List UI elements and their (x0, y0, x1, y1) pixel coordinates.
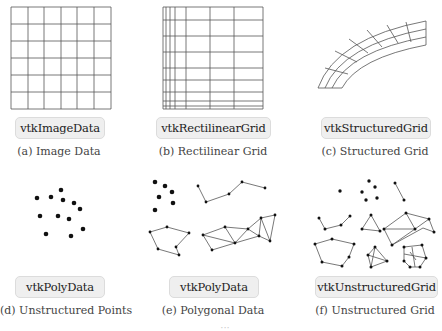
polygonal-data-figure (145, 175, 295, 264)
cropped-figure-caption: ··· (150, 322, 300, 331)
unstructured-grid-figure (300, 175, 442, 274)
structured-grid-figure (316, 18, 432, 97)
caption-f: (f) Unstructured Grid (312, 304, 438, 317)
class-label-d: vtkPolyData (15, 276, 105, 298)
caption-b: (b) Rectilinear Grid (150, 145, 276, 158)
curvilinear-grid-icon (316, 18, 432, 93)
class-label-e: vtkPolyData (169, 276, 259, 298)
uniform-grid-icon (10, 6, 112, 110)
point-cloud-icon (0, 165, 120, 245)
rectilinear-grid-icon (162, 6, 264, 110)
image-data-figure (10, 6, 112, 114)
polygon-mesh-icon (145, 175, 295, 260)
mixed-cell-mesh-icon (300, 175, 442, 270)
class-label-f: vtkUnstructuredGrid (315, 276, 438, 298)
caption-e: (e) Polygonal Data (150, 304, 276, 317)
class-label-b: vtkRectilinearGrid (156, 117, 271, 139)
caption-a: (a) Image Data (0, 145, 118, 158)
unstructured-points-figure (0, 165, 120, 249)
rectilinear-grid-figure (162, 6, 264, 114)
caption-d: (d) Unstructured Points (0, 304, 122, 317)
class-label-a: vtkImageData (15, 117, 105, 139)
class-label-c: vtkStructuredGrid (321, 117, 431, 139)
caption-c: (c) Structured Grid (312, 145, 438, 158)
